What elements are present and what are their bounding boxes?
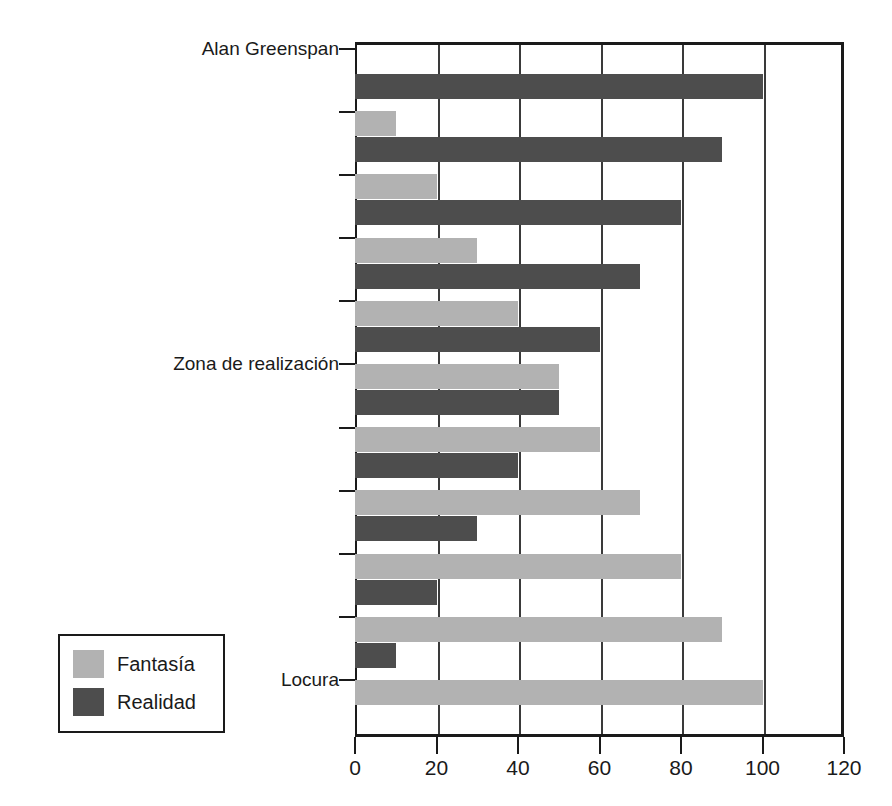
x-axis-label: 40 bbox=[506, 757, 529, 778]
y-axis-label: Alan Greenspan bbox=[202, 39, 339, 58]
x-axis-label: 100 bbox=[745, 757, 780, 778]
legend-label-realidad: Realidad bbox=[117, 692, 196, 712]
y-tick bbox=[339, 237, 355, 239]
bar-fantasia bbox=[355, 617, 722, 642]
y-tick bbox=[339, 300, 355, 302]
bar-realidad bbox=[355, 74, 763, 99]
legend-swatch-fantasia bbox=[73, 650, 104, 678]
bar-realidad bbox=[355, 580, 437, 605]
bar-fantasia bbox=[355, 680, 763, 705]
y-tick bbox=[339, 490, 355, 492]
legend-label-fantasia: Fantasía bbox=[117, 654, 195, 674]
bar-group bbox=[355, 364, 844, 415]
y-axis-label: Zona de realización bbox=[173, 354, 339, 373]
bars-layer bbox=[355, 42, 844, 737]
y-tick bbox=[339, 174, 355, 176]
y-tick bbox=[339, 553, 355, 555]
bar-fantasia bbox=[355, 554, 681, 579]
bar-group bbox=[355, 48, 844, 99]
bar-group bbox=[355, 174, 844, 225]
bar-fantasia bbox=[355, 238, 477, 263]
bar-chart-figure: Alan GreenspanZona de realizaciónLocura … bbox=[0, 0, 892, 806]
bar-realidad bbox=[355, 327, 600, 352]
y-tick bbox=[339, 616, 355, 618]
bar-realidad bbox=[355, 516, 477, 541]
bar-fantasia bbox=[355, 427, 600, 452]
legend-swatch-realidad bbox=[73, 688, 104, 716]
bar-realidad bbox=[355, 390, 559, 415]
x-axis-label: 60 bbox=[588, 757, 611, 778]
y-axis-label: Locura bbox=[281, 670, 339, 689]
x-tick-120 bbox=[843, 737, 845, 754]
bar-fantasia bbox=[355, 301, 518, 326]
x-axis-label: 80 bbox=[669, 757, 692, 778]
x-tick-60 bbox=[599, 737, 601, 754]
x-tick-80 bbox=[680, 737, 682, 754]
chart-legend: Fantasía Realidad bbox=[58, 634, 225, 733]
bar-group bbox=[355, 680, 844, 731]
x-axis-label: 20 bbox=[425, 757, 448, 778]
bar-realidad bbox=[355, 264, 640, 289]
bar-fantasia bbox=[355, 174, 437, 199]
bar-fantasia bbox=[355, 364, 559, 389]
bar-realidad bbox=[355, 137, 722, 162]
bar-realidad bbox=[355, 643, 396, 668]
bar-group bbox=[355, 490, 844, 541]
x-tick-20 bbox=[436, 737, 438, 754]
bar-group bbox=[355, 617, 844, 668]
bar-group bbox=[355, 111, 844, 162]
bar-group bbox=[355, 238, 844, 289]
legend-item-realidad: Realidad bbox=[73, 688, 196, 716]
x-tick-100 bbox=[762, 737, 764, 754]
bar-realidad bbox=[355, 453, 518, 478]
x-axis-label: 120 bbox=[826, 757, 861, 778]
bar-realidad bbox=[355, 200, 681, 225]
bar-fantasia bbox=[355, 111, 396, 136]
y-tick bbox=[339, 111, 355, 113]
legend-item-fantasia: Fantasía bbox=[73, 650, 195, 678]
x-axis-label: 0 bbox=[349, 757, 361, 778]
y-tick bbox=[339, 48, 355, 50]
bar-group bbox=[355, 554, 844, 605]
bar-group bbox=[355, 301, 844, 352]
x-tick-40 bbox=[517, 737, 519, 754]
y-tick bbox=[339, 363, 355, 365]
y-tick bbox=[339, 427, 355, 429]
x-tick-0 bbox=[354, 737, 356, 754]
y-tick bbox=[339, 679, 355, 681]
bar-fantasia bbox=[355, 490, 640, 515]
bar-group bbox=[355, 427, 844, 478]
